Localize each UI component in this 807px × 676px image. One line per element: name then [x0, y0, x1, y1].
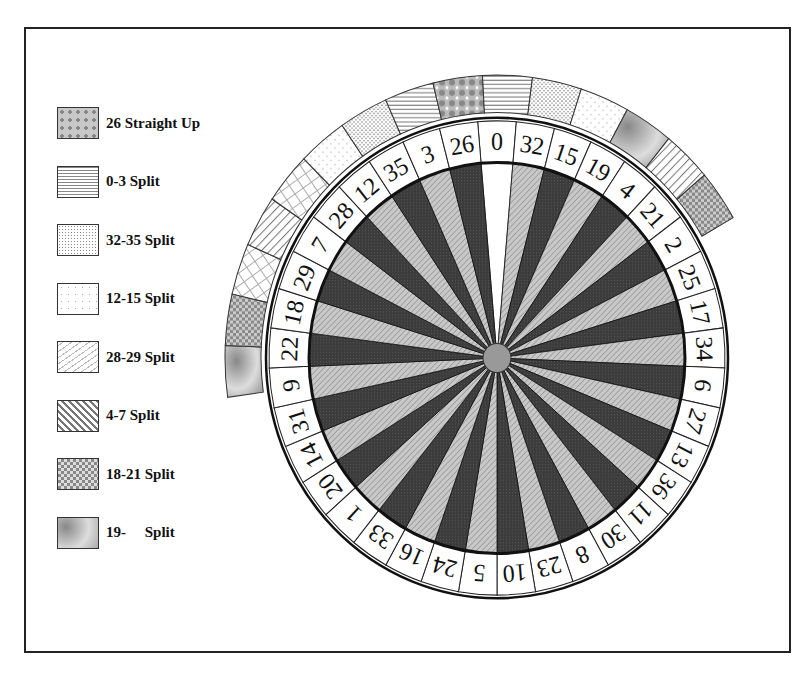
pocket-number: 0	[491, 128, 503, 156]
outer-band-segment-gradient	[225, 345, 263, 397]
pocket-number: 22	[275, 336, 302, 362]
pocket-number: 10	[502, 559, 528, 589]
pocket-number: 26	[448, 129, 476, 160]
wheel-hub	[483, 343, 511, 372]
outer-band-segment-checker	[225, 294, 267, 347]
outer-band-segment-horizontal-lines	[483, 75, 533, 115]
pocket-number: 34	[691, 336, 718, 362]
roulette-wheel: 0321519421225173462713361130823105241633…	[0, 0, 807, 676]
pocket-number: 5	[472, 559, 486, 587]
pocket-number: 32	[518, 129, 546, 160]
outer-band-segment-plus-checker	[433, 76, 484, 120]
